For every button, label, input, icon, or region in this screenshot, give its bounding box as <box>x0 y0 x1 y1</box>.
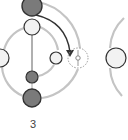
right-ring-upper <box>110 18 124 48</box>
inner-ring-lower-right <box>38 65 54 76</box>
middle-ring-upper-right <box>40 27 58 50</box>
node-right-small-light <box>50 52 62 64</box>
node-bottom-dark <box>23 89 41 107</box>
move-arrow <box>36 15 70 52</box>
pin-icon <box>76 50 80 66</box>
middle-ring-lower-left <box>2 67 23 96</box>
ring-arcs <box>2 2 124 98</box>
arrow-head-icon <box>66 50 74 57</box>
node-top-dark <box>22 0 42 16</box>
node-lower-small-dark <box>26 71 38 83</box>
node-upper-light <box>24 19 40 35</box>
outer-ring-upper-right <box>38 2 80 48</box>
orbit-diagram <box>0 0 128 140</box>
right-ring-lower <box>110 68 122 96</box>
node-far-right-light <box>106 48 126 68</box>
node-left-light <box>0 49 9 67</box>
step-label: 3 <box>24 118 42 130</box>
middle-ring-upper-left <box>4 28 24 50</box>
